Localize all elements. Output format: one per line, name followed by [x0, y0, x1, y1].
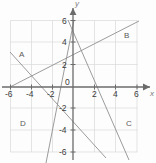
line-c — [68, 20, 129, 160]
x-tick-label-neg4: -4 — [26, 90, 34, 99]
line-label-d: D — [20, 120, 26, 128]
line-label-b: B — [124, 32, 129, 40]
y-tick-label-neg2: -2 — [59, 104, 67, 113]
origin-label: 0 — [65, 78, 70, 87]
line-label-a: A — [19, 51, 24, 59]
y-tick-label-neg4: -4 — [59, 126, 67, 135]
x-tick-label-6: 6 — [134, 90, 139, 99]
y-tick-label-neg6: -6 — [59, 148, 67, 157]
x-tick-label-2: 2 — [92, 90, 97, 99]
coordinate-plane — [0, 0, 156, 163]
x-axis-arrow — [143, 84, 150, 91]
line-a — [10, 52, 106, 158]
y-tick-label-2: 2 — [62, 61, 67, 70]
line-label-c: C — [126, 120, 132, 128]
x-axis-label: x — [150, 90, 154, 98]
grid-lines — [11, 21, 138, 153]
line-b — [10, 21, 139, 87]
y-tick-label-4: 4 — [62, 38, 67, 47]
y-axis-label: y — [75, 0, 79, 8]
x-tick-label-neg6: -6 — [5, 90, 13, 99]
x-tick-label-neg2: -2 — [47, 90, 55, 99]
x-tick-label-4: 4 — [113, 90, 118, 99]
y-tick-label-6: 6 — [62, 17, 67, 26]
y-axis-arrow — [70, 8, 77, 15]
axis-tick-marks — [11, 21, 138, 153]
graph-figure: -6 -4 -2 2 4 6 6 4 2 -2 -4 -6 0 x y A B … — [0, 0, 156, 163]
